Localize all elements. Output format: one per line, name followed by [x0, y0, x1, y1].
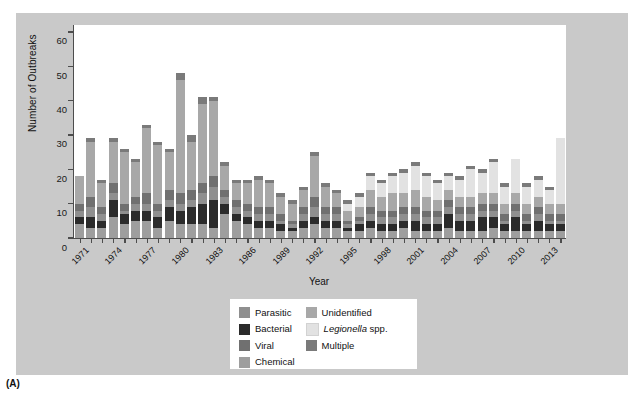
bar-1981	[187, 135, 196, 238]
bar-segment-parasitic	[366, 214, 375, 221]
bar-segment-viral	[86, 197, 95, 207]
legend-label: Multiple	[322, 341, 355, 351]
bar-segment-viral	[131, 197, 140, 204]
bar-segment-viral	[466, 207, 475, 214]
bar-segment-legionella-spp	[388, 176, 397, 193]
bar-segment-viral	[120, 204, 129, 211]
bar-1991	[299, 186, 308, 238]
bar-segment-bacterial	[243, 217, 252, 224]
legend-item-unidentified: Unidentified	[306, 306, 388, 319]
bar-segment-chemical	[75, 224, 84, 238]
bar-segment-unidentified	[75, 176, 84, 203]
bar-segment-chemical	[466, 231, 475, 238]
bar-segment-chemical	[109, 217, 118, 238]
legend-swatch-icon	[239, 357, 250, 368]
bar-2011	[522, 183, 531, 238]
x-axis-tick-mark	[538, 238, 539, 243]
bar-1984	[220, 162, 229, 238]
bar-segment-legionella-spp	[343, 204, 352, 211]
bar-segment-unidentified	[332, 193, 341, 207]
bar-segment-chemical	[366, 228, 375, 238]
bar-segment-parasitic	[153, 211, 162, 218]
bar-segment-viral	[254, 207, 263, 214]
bar-segment-parasitic	[142, 204, 151, 211]
bar-segment-bacterial	[187, 207, 196, 224]
bar-1975	[120, 149, 129, 238]
bar-segment-parasitic	[131, 204, 140, 211]
bar-2007	[478, 169, 487, 238]
bar-segment-legionella-spp	[433, 183, 442, 200]
legend-label: Unidentified	[322, 308, 372, 318]
bar-segment-viral	[232, 200, 241, 207]
bar-segment-viral	[299, 207, 308, 214]
bar-segment-bacterial	[377, 224, 386, 231]
bar-segment-viral	[388, 211, 397, 218]
bar-segment-viral	[366, 207, 375, 214]
bar-segment-legionella-spp	[411, 166, 420, 190]
bar-segment-bacterial	[153, 217, 162, 227]
y-axis-tick-mark	[68, 134, 73, 135]
bar-segment-viral	[489, 204, 498, 211]
bar-segment-bacterial	[198, 204, 207, 225]
bar-segment-chemical	[534, 231, 543, 238]
bar-segment-chemical	[489, 228, 498, 238]
legend-swatch-icon	[306, 340, 317, 351]
bar-segment-parasitic	[377, 217, 386, 224]
bar-segment-viral	[545, 214, 554, 221]
bar-1986	[243, 180, 252, 238]
bar-segment-chemical	[209, 228, 218, 238]
bar-segment-legionella-spp	[444, 176, 453, 190]
bar-1978	[153, 142, 162, 238]
bar-segment-parasitic	[489, 211, 498, 218]
x-axis-tick-mark	[382, 238, 383, 243]
x-axis-tick-mark	[214, 238, 215, 243]
bar-2004	[444, 173, 453, 238]
bar-segment-legionella-spp	[377, 183, 386, 197]
bar-segment-viral	[209, 176, 218, 186]
legend-item-chemical: Chemical	[239, 356, 295, 369]
plot-inner: 0102030405060197119741977198019831986198…	[74, 25, 566, 238]
bar-segment-parasitic	[243, 211, 252, 218]
bar-segment-bacterial	[86, 217, 95, 227]
x-axis-tick-mark	[80, 238, 81, 243]
bar-segment-unidentified	[153, 145, 162, 203]
bar-segment-unidentified	[534, 197, 543, 207]
legend-swatch-icon	[239, 340, 250, 351]
bar-segment-parasitic	[466, 214, 475, 221]
bar-segment-viral	[556, 214, 565, 221]
bar-segment-viral	[276, 214, 285, 221]
bar-segment-chemical	[455, 231, 464, 238]
bar-segment-parasitic	[433, 217, 442, 224]
bar-segment-chemical	[232, 221, 241, 238]
bar-segment-bacterial	[534, 221, 543, 231]
bar-segment-parasitic	[232, 207, 241, 214]
bar-segment-bacterial	[165, 207, 174, 221]
legend-item-legionella-spp: Legionella spp.	[306, 323, 388, 336]
bar-segment-parasitic	[176, 204, 185, 211]
bar-segment-parasitic	[388, 217, 397, 224]
x-axis-tick-mark	[124, 238, 125, 243]
x-axis-tick-mark	[270, 238, 271, 243]
bar-segment-bacterial	[220, 204, 229, 214]
bar-1976	[131, 159, 140, 238]
bar-segment-chemical	[511, 231, 520, 238]
bar-1971	[75, 176, 84, 238]
bar-segment-parasitic	[534, 214, 543, 221]
bar-segment-chemical	[254, 228, 263, 238]
bar-segment-bacterial	[109, 200, 118, 217]
bar-segment-viral	[511, 204, 520, 211]
bar-segment-parasitic	[187, 200, 196, 207]
bar-segment-parasitic	[220, 197, 229, 204]
bar-segment-multiple	[176, 73, 185, 80]
bar-segment-viral	[97, 207, 106, 214]
bar-segment-parasitic	[75, 211, 84, 218]
bar-2014	[556, 138, 565, 238]
y-axis-tick-label: 0	[62, 242, 74, 252]
bar-segment-chemical	[321, 228, 330, 238]
legend-item-multiple: Multiple	[306, 339, 388, 352]
bar-segment-chemical	[478, 231, 487, 238]
y-axis-tick-label: 50	[56, 70, 74, 80]
bar-segment-chemical	[299, 228, 308, 238]
bar-1982	[198, 97, 207, 238]
bar-segment-parasitic	[399, 214, 408, 221]
